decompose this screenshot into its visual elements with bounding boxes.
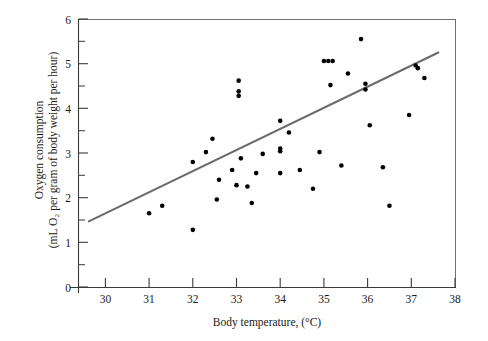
data-point [204,150,209,155]
data-point [367,123,372,128]
data-point [191,228,196,233]
y-tick-label: 0 [65,282,71,294]
regression-trendline [89,53,439,222]
x-tick-label: 33 [231,293,243,305]
x-tick-label: 31 [143,293,155,305]
data-point [407,113,412,118]
data-point [346,71,351,76]
x-tick-label: 35 [318,293,330,305]
y-axis-ticks-major [79,19,89,287]
data-point [160,203,165,208]
x-axis-label: Body temperature, (°C) [213,316,322,329]
y-axis-label-line1: Oxygen consumption [33,100,46,199]
x-axis-ticks-major [105,278,455,288]
data-point [230,168,235,173]
plot-frame [78,20,456,288]
x-tick-label: 37 [406,293,418,305]
data-point [147,211,152,216]
data-point [326,59,331,64]
data-point [328,83,333,88]
data-points-layer [147,37,427,232]
data-point [234,183,239,188]
data-point [416,66,421,71]
y-tick-label: 4 [65,103,71,115]
plot-canvas: 0 1 2 3 4 5 6 30 31 32 33 34 35 36 37 38… [0,0,488,341]
y-tick-label: 5 [65,58,71,70]
data-point [217,178,222,183]
y-tick-label: 1 [65,237,71,249]
data-point [260,152,265,157]
data-point [298,168,303,173]
data-point [254,171,259,176]
x-axis [70,278,456,288]
data-point [250,201,255,206]
data-point [239,156,244,161]
data-point [236,94,241,99]
data-point [363,81,368,86]
data-point [381,165,386,170]
data-point [330,59,335,64]
y-tick-label: 2 [65,192,71,204]
y-tick-labels: 0 1 2 3 4 5 6 [65,14,71,294]
x-tick-label: 30 [100,293,112,305]
y-tick-label: 6 [65,14,71,26]
data-point [287,130,292,135]
data-point [191,160,196,165]
y-axis-label-line2: (mL O₂ per gram of body weight per hour) [47,52,60,249]
data-point [339,163,344,168]
data-point [422,76,427,81]
data-point [236,78,241,83]
x-tick-label: 34 [274,293,286,305]
x-tick-label: 38 [449,293,461,305]
data-point [278,149,283,154]
scatter-plot-figure: 0 1 2 3 4 5 6 30 31 32 33 34 35 36 37 38… [0,0,488,341]
data-point [215,197,220,202]
y-axis [79,19,89,293]
data-point [359,37,364,42]
x-tick-labels: 30 31 32 33 34 35 36 37 38 [100,293,461,305]
y-tick-label: 3 [65,148,71,160]
data-point [311,186,316,191]
data-point [210,136,215,141]
data-point [245,184,250,189]
data-point [387,203,392,208]
data-point [278,171,283,176]
data-point [236,89,241,94]
x-tick-label: 32 [187,293,199,305]
data-point [317,150,322,155]
data-point [278,119,283,124]
x-tick-label: 36 [362,293,374,305]
data-point [363,87,368,92]
data-point [322,59,327,64]
